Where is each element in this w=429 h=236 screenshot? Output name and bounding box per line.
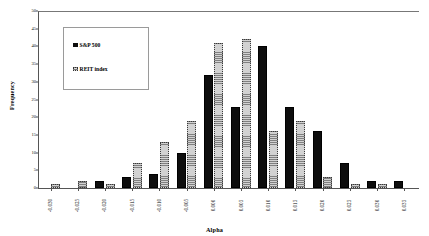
bar-sp500 — [231, 107, 240, 188]
x-tick-label: 0.030 — [375, 187, 380, 225]
x-tick: 0.010 — [256, 189, 282, 223]
bar-group — [365, 11, 392, 188]
x-tick: 0.030 — [365, 189, 391, 223]
bar-reit — [187, 121, 196, 188]
x-tick-label: 0.025 — [348, 187, 353, 225]
bar-group — [229, 11, 256, 188]
y-tick-label: 25 — [0, 97, 36, 102]
histogram-chart: Frequency 05101520253035404550 S&P 500 R… — [0, 0, 429, 236]
x-tick: 0.035 — [392, 189, 418, 223]
bar-reit — [133, 163, 142, 188]
y-tick-label: 15 — [0, 133, 36, 138]
bar-sp500 — [313, 131, 322, 188]
x-tick: -0.020 — [92, 189, 118, 223]
bar-sp500 — [177, 153, 186, 188]
x-tick-label: -0.010 — [157, 187, 162, 225]
x-tick: 0.005 — [229, 189, 255, 223]
bar-reit — [242, 39, 251, 188]
legend-swatch-sp500-icon — [73, 43, 78, 48]
y-tick-label: 35 — [0, 62, 36, 67]
y-tick-label: 40 — [0, 44, 36, 49]
x-tick: 0.000 — [201, 189, 227, 223]
x-axis-title: Alpha — [0, 226, 429, 233]
bar-group — [256, 11, 283, 188]
bar-group — [147, 11, 174, 188]
legend-label-sp500: S&P 500 — [80, 42, 101, 48]
x-tick-label: 0.035 — [402, 187, 407, 225]
bar-group — [310, 11, 337, 188]
bar-reit — [296, 121, 305, 188]
bar-reit — [160, 142, 169, 188]
x-tick-label: 0.005 — [239, 187, 244, 225]
chart-legend: S&P 500 REIT index — [63, 27, 149, 90]
bar-sp500 — [258, 46, 267, 188]
x-tick: -0.030 — [38, 189, 64, 223]
x-tick-label: 0.000 — [212, 187, 217, 225]
x-tick-label: -0.025 — [76, 187, 81, 225]
y-tick-label: 45 — [0, 26, 36, 31]
bar-sp500 — [204, 75, 213, 188]
bar-reit — [214, 43, 223, 188]
x-tick-label: -0.020 — [103, 187, 108, 225]
bar-group — [174, 11, 201, 188]
legend-swatch-reit-icon — [73, 67, 78, 72]
x-tick-label: 0.020 — [321, 187, 326, 225]
bar-group — [201, 11, 228, 188]
x-tick-label: 0.015 — [293, 187, 298, 225]
x-tick: -0.015 — [120, 189, 146, 223]
bar-sp500 — [340, 163, 349, 188]
y-tick-label: 50 — [0, 9, 36, 14]
x-tick-label: -0.015 — [130, 187, 135, 225]
y-tick-label: 30 — [0, 79, 36, 84]
bar-group — [38, 11, 65, 188]
y-tick-label: 10 — [0, 150, 36, 155]
x-tick-label: 0.010 — [266, 187, 271, 225]
bar-group — [337, 11, 364, 188]
x-axis-tick-labels: -0.030-0.025-0.020-0.015-0.010-0.0050.00… — [38, 189, 419, 225]
x-tick-label: -0.005 — [185, 187, 190, 225]
bar-reit — [269, 131, 278, 188]
x-tick: -0.025 — [65, 189, 91, 223]
bar-sp500 — [285, 107, 294, 188]
legend-item-sp500: S&P 500 — [73, 42, 100, 48]
x-tick: -0.010 — [147, 189, 173, 223]
y-tick-label: 20 — [0, 115, 36, 120]
x-tick-label: -0.030 — [48, 187, 53, 225]
x-tick: -0.005 — [174, 189, 200, 223]
bar-group — [283, 11, 310, 188]
legend-item-reit: REIT index — [73, 66, 108, 72]
x-tick: 0.015 — [283, 189, 309, 223]
legend-label-reit: REIT index — [80, 66, 108, 72]
y-tick-label: 5 — [0, 168, 36, 173]
bar-group — [392, 11, 419, 188]
y-tick-label: 0 — [0, 186, 36, 191]
x-tick: 0.020 — [310, 189, 336, 223]
x-tick: 0.025 — [337, 189, 363, 223]
